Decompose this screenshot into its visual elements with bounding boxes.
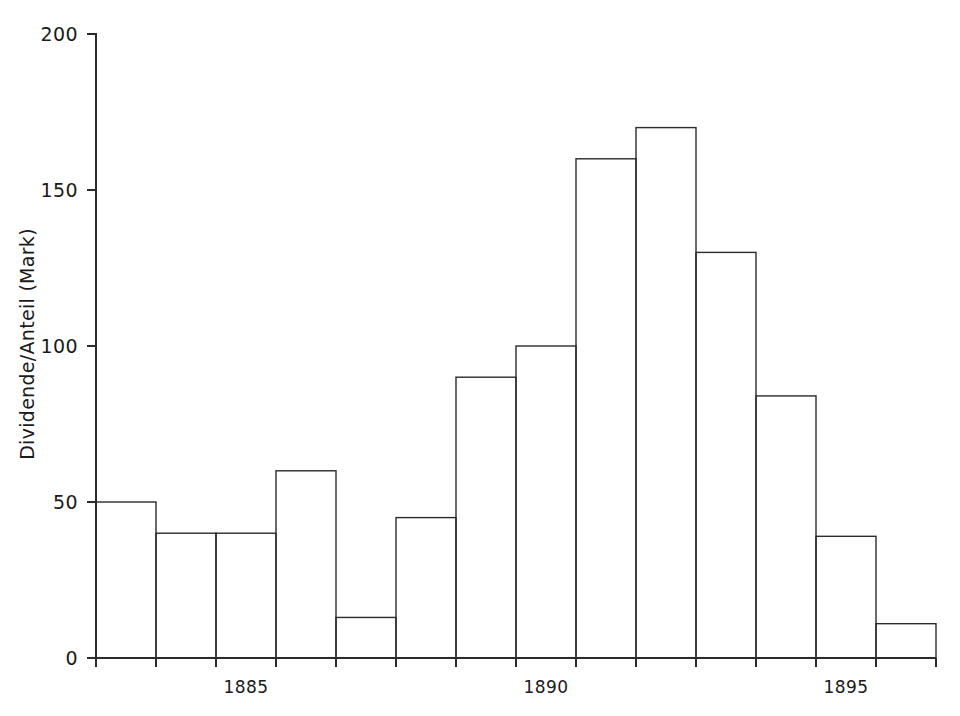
- bar: [276, 471, 336, 658]
- y-tick-labels: 050100150200: [41, 23, 78, 669]
- bar: [636, 128, 696, 658]
- x-tick-label: 1885: [224, 677, 269, 697]
- bar-series: [96, 128, 936, 658]
- chart-figure: 050100150200 188518901895 Dividende/Ante…: [0, 0, 960, 716]
- bar: [336, 617, 396, 658]
- y-tick-label: 150: [41, 179, 78, 201]
- y-axis-title: Dividende/Anteil (Mark): [16, 228, 38, 460]
- bar: [696, 252, 756, 658]
- bar: [96, 502, 156, 658]
- bar: [516, 346, 576, 658]
- bar: [396, 518, 456, 658]
- x-tick-label: 1890: [524, 677, 569, 697]
- x-axis: [96, 658, 936, 667]
- bar: [816, 536, 876, 658]
- bar: [216, 533, 276, 658]
- chart-canvas: 050100150200 188518901895 Dividende/Ante…: [0, 0, 960, 716]
- bar: [876, 624, 936, 658]
- x-tick-labels: 188518901895: [224, 677, 869, 697]
- x-tick-label: 1895: [824, 677, 869, 697]
- bar: [156, 533, 216, 658]
- y-tick-label: 0: [66, 647, 79, 669]
- bar: [456, 377, 516, 658]
- y-tick-label: 200: [41, 23, 78, 45]
- bar: [576, 159, 636, 658]
- y-tick-label: 100: [41, 335, 78, 357]
- bar: [756, 396, 816, 658]
- y-tick-label: 50: [53, 491, 78, 513]
